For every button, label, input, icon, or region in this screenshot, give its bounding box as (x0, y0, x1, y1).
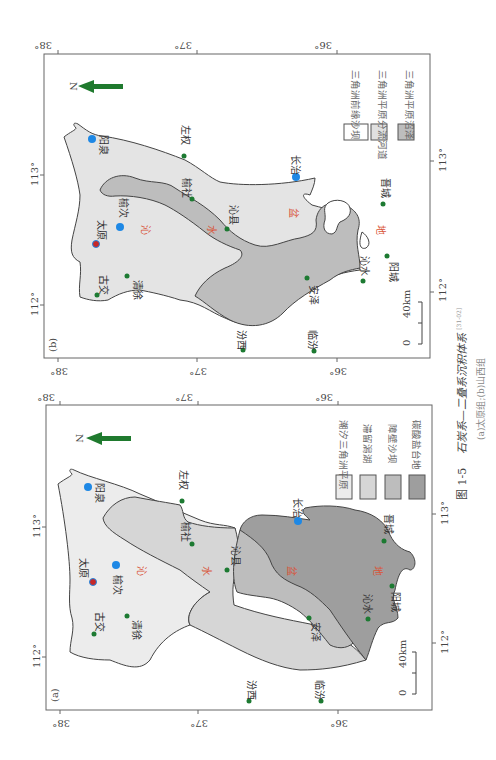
map-a-city-dot-zuoquan (180, 499, 185, 504)
map-a-lon-112-left: 112° (31, 644, 42, 668)
map-b-city-gujiao: 古交 (98, 275, 110, 295)
svg-text:40km: 40km (397, 639, 408, 668)
map-b-city-dot-jincheng (381, 202, 386, 207)
map-a-city-anze: 安泽 (310, 622, 322, 642)
map-b-panel-label: (b) (47, 338, 58, 352)
map-a-city-yuci: 榆次 (112, 575, 124, 595)
map-a-legend-swatch-4 (409, 475, 425, 499)
map-b-legend-label-3: 三角洲平原沼泽 (404, 70, 415, 140)
svg-text:沁: 沁 (140, 225, 151, 235)
map-b-lon-113-left: 113° (29, 162, 40, 186)
map-a-city-jincheng: 晋城 (383, 514, 394, 534)
map-b-lat-38-top: 38° (34, 40, 52, 51)
map-b-lon-112-left: 112° (29, 292, 40, 316)
map-a-city-qingxu: 清徐 (131, 620, 143, 640)
figure-title: 石炭系—二叠系沉积体系 (456, 332, 469, 454)
map-a-city-gujiao: 古交 (94, 612, 106, 632)
map-b-legend-label-2: 三角洲平原分流河道 (377, 70, 388, 160)
map-a-city-dot-yushe (190, 542, 195, 547)
map-a-city-zuoquan: 左权 (178, 470, 190, 490)
map-a-lon-113-right: 113° (439, 501, 450, 525)
map-a-lat-37-top: 37° (175, 392, 193, 403)
map-b-city-qinshui: 沁水 (359, 256, 370, 276)
map-a-city-dot-gujiao (92, 632, 97, 637)
map-b-lat-38-bottom: 38° (50, 366, 68, 377)
map-b: 38° 37° 36° 38° 37° 36° 113° 112° 113° 1… (29, 40, 448, 377)
figure-number: 图 1-5 (456, 468, 469, 500)
map-a-city-fenxi: 汾西 (246, 680, 257, 700)
map-b-lat-37-bottom: 37° (189, 366, 207, 377)
map-a-city-qinxian: 沁县 (230, 546, 241, 566)
map-b-city-dot-anze (305, 276, 310, 281)
map-b-major-city-yuci-icon (116, 223, 124, 231)
map-a-lat-36-top: 36° (315, 392, 333, 403)
map-a-lat-37-bottom: 37° (190, 718, 208, 729)
map-b-city-yushe: 榆社 (181, 178, 193, 198)
map-a-lat-38-bottom: 38° (52, 718, 70, 729)
map-a-legend-swatch-3 (385, 475, 401, 499)
map-b-major-city-yangquan-icon (88, 135, 96, 143)
svg-text:图 1-5 石炭系—二叠系沉积体系: 图 1-5 石炭系—二叠系沉积体系 [31-02] (455, 308, 469, 500)
map-b-city-dot-qingxu (125, 274, 130, 279)
map-b-city-jincheng: 晋城 (380, 178, 391, 198)
map-b-city-dot-qinshui (361, 279, 366, 284)
figure-subtitle: (a)太原组;(b)山西组 (475, 358, 486, 440)
svg-text:盆: 盆 (286, 566, 298, 576)
figure-caption: 图 1-5 石炭系—二叠系沉积体系 [31-02] (a)太原组;(b)山西组 (455, 308, 486, 500)
svg-text:盆: 盆 (288, 208, 300, 218)
map-b-city-linfen: 临汾 (307, 330, 319, 350)
map-b-city-dot-qinxian (225, 227, 230, 232)
figure-canvas: 38° 37° 36° 38° 37° 36° 113° 112° 113° 1… (0, 0, 496, 760)
svg-text:地: 地 (372, 566, 384, 576)
map-a-city-yushe: 榆社 (180, 522, 192, 542)
svg-text:地: 地 (375, 225, 387, 235)
map-a-lon-113-left: 113° (31, 514, 42, 538)
map-b-lat-36-bottom: 36° (329, 366, 347, 377)
map-a-panel-label: (a) (49, 688, 60, 702)
map-b-city-yangquan: 阳泉 (98, 135, 110, 155)
map-a-legend-swatch-2 (360, 475, 376, 499)
map-b-lat-37-top: 37° (174, 40, 192, 51)
map-a-legend-label-4: 碳酸盐台地 (411, 420, 422, 470)
svg-text:0: 0 (401, 340, 412, 346)
map-a-city-changzhi: 长治 (292, 498, 304, 518)
map-b-city-qingxu: 清徐 (132, 280, 144, 300)
map-a-city-dot-qingxu (125, 614, 130, 619)
map-a-legend-label-3: 障壁沙坝 (387, 424, 398, 464)
map-a-city-qinshui: 沁水 (362, 594, 373, 614)
map-b-city-qinxian: 沁县 (228, 205, 239, 225)
map-b-city-fenxi: 汾西 (236, 330, 247, 350)
map-a-city-linfen: 临汾 (314, 680, 326, 700)
map-b-lon-112-right: 112° (437, 278, 448, 302)
svg-text:0: 0 (397, 690, 408, 696)
map-a-legend-label-2: 滞留潟湖 (362, 424, 373, 464)
svg-text:沁: 沁 (136, 566, 147, 576)
map-a-capital-taiyuan-icon (90, 579, 97, 586)
map-b-city-dot-zuoquan (182, 154, 187, 159)
figure-citation: [31-02] (455, 308, 462, 330)
svg-text:水: 水 (206, 225, 217, 235)
map-a-city-dot-anze (307, 616, 312, 621)
map-a-city-yangcheng: 阳城 (390, 592, 401, 612)
svg-text:N: N (68, 82, 79, 91)
map-a-city-dot-jincheng (382, 539, 387, 544)
map-a-major-city-yuci-icon (112, 561, 120, 569)
svg-text:40km: 40km (401, 289, 412, 318)
map-a-city-dot-qinshui (366, 617, 371, 622)
map-a-legend-label-1: 潮汐三角洲平原 (338, 420, 349, 490)
map-b-city-zuoquan: 左权 (180, 125, 192, 145)
map-a-major-city-yangquan-icon (84, 483, 92, 491)
map-a-lat-38-top: 38° (37, 392, 55, 403)
map-a-city-dot-yangcheng (390, 584, 395, 589)
map-a-city-yangquan: 阳泉 (94, 483, 106, 503)
map-b-legend-label-1: 三角洲前缘沙坝 (350, 70, 361, 140)
map-b-city-taiyuan: 太原 (96, 220, 108, 240)
map-a-major-city-changzhi-icon (294, 517, 302, 525)
svg-text:N: N (74, 434, 85, 443)
map-b-lat-36-top: 36° (314, 40, 332, 51)
map-b-city-yangcheng: 阳城 (388, 262, 399, 282)
map-a: 38° 37° 36° 38° 37° 36° 113° 112° 113° 1… (31, 392, 450, 729)
map-b-city-changzhi: 长治 (290, 155, 302, 175)
map-b-city-anze: 安泽 (308, 285, 320, 305)
map-b-lon-113-right: 113° (437, 148, 448, 172)
